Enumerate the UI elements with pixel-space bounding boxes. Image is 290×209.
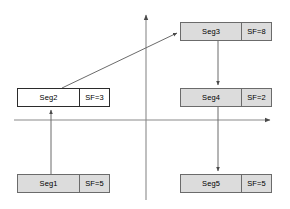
node-seg3-label: Seg3 bbox=[181, 23, 241, 40]
node-seg4-label: Seg4 bbox=[181, 89, 241, 106]
node-seg4[interactable]: Seg4 SF=2 bbox=[180, 88, 272, 107]
node-seg2-label: Seg2 bbox=[18, 89, 79, 106]
node-seg1-label: Seg1 bbox=[18, 175, 79, 192]
node-seg2-sf: SF=3 bbox=[79, 89, 109, 106]
arrow-seg2-to-seg3 bbox=[62, 33, 177, 88]
node-seg5-label: Seg5 bbox=[181, 175, 241, 192]
node-seg3[interactable]: Seg3 SF=8 bbox=[180, 22, 272, 41]
node-seg1-sf: SF=5 bbox=[79, 175, 109, 192]
node-seg4-sf: SF=2 bbox=[241, 89, 271, 106]
node-seg2[interactable]: Seg2 SF=3 bbox=[17, 88, 110, 107]
node-seg5-sf: SF=5 bbox=[241, 175, 271, 192]
diagram-canvas: Seg1 SF=5 Seg2 SF=3 Seg3 SF=8 Seg4 SF=2 … bbox=[0, 0, 290, 209]
node-seg3-sf: SF=8 bbox=[241, 23, 271, 40]
node-seg1[interactable]: Seg1 SF=5 bbox=[17, 174, 110, 193]
node-seg5[interactable]: Seg5 SF=5 bbox=[180, 174, 272, 193]
